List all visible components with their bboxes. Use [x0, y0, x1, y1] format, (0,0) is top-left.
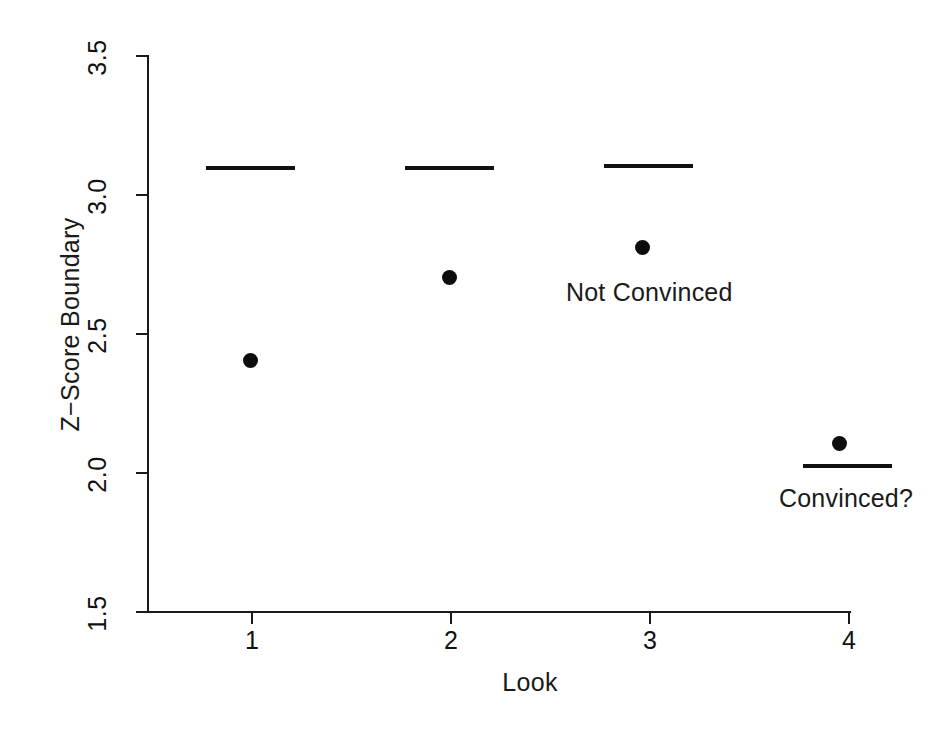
x-axis-tick-mark [649, 613, 651, 624]
y-axis-tick-mark [136, 472, 147, 474]
y-axis-tick-label: 2.5 [83, 301, 112, 371]
x-axis-title: Look [430, 668, 630, 697]
y-axis-tick-mark [136, 194, 147, 196]
data-point-look-3 [635, 240, 650, 255]
y-axis-tick-label: 2.0 [83, 440, 112, 510]
x-axis-tick-label: 3 [630, 626, 670, 655]
x-axis-tick-label: 4 [829, 626, 869, 655]
y-axis-tick-label: 1.5 [83, 579, 112, 649]
y-axis-tick-mark [136, 333, 147, 335]
y-axis-title: Z−Score Boundary [56, 205, 85, 445]
x-axis-tick-label: 2 [431, 626, 471, 655]
data-point-look-4 [832, 436, 847, 451]
data-point-look-2 [442, 270, 457, 285]
boundary-segment-look-4 [803, 464, 892, 468]
boundary-segment-look-1 [206, 166, 295, 170]
x-axis-tick-mark [848, 613, 850, 624]
x-axis-tick-mark [251, 613, 253, 624]
y-axis-tick-label: 3.0 [83, 162, 112, 232]
y-axis-tick-mark [136, 611, 147, 613]
data-point-look-1 [243, 353, 258, 368]
annotation-not-convinced: Not Convinced [566, 278, 733, 307]
y-axis-tick-label: 3.5 [83, 23, 112, 93]
boundary-segment-look-2 [405, 166, 494, 170]
chart-figure: 3.5 3.0 2.5 2.0 1.5 1 2 3 4 Z−Score Boun… [0, 0, 948, 739]
boundary-segment-look-3 [604, 164, 693, 168]
x-axis-tick-mark [450, 613, 452, 624]
x-axis-tick-label: 1 [232, 626, 272, 655]
y-axis-line [147, 55, 149, 613]
annotation-convinced: Convinced? [779, 484, 913, 513]
y-axis-tick-mark [136, 55, 147, 57]
